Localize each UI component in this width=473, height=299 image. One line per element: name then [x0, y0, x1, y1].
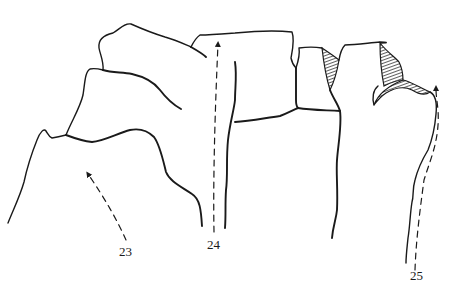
middle-block-top: [103, 70, 181, 109]
small-block-outline: [296, 47, 322, 68]
label-24: 24: [207, 237, 221, 252]
right-block-top: [339, 42, 386, 60]
central-block-left-side: [225, 62, 236, 228]
hatched-band: [374, 80, 430, 105]
upper-block-tab: [191, 47, 206, 57]
small-block-base: [298, 108, 340, 111]
central-block-base: [235, 108, 298, 122]
illustration: 23 24 25: [0, 0, 473, 299]
left-peak-outline: [8, 130, 66, 223]
lower-block-edge: [66, 129, 202, 226]
label-25: 25: [410, 268, 423, 283]
hatched-wedge-right: [380, 43, 403, 86]
arrow-23: [88, 174, 126, 240]
arrow-24: [214, 44, 218, 232]
central-block-right-side: [296, 68, 298, 108]
upper-block-outline: [99, 24, 191, 70]
middle-block-outline: [66, 69, 103, 135]
hatched-wedge-left: [322, 48, 339, 90]
arrow-25: [415, 88, 438, 270]
right-outer-line: [406, 92, 436, 263]
right-block-left-side: [330, 90, 341, 238]
central-block-outline: [191, 31, 296, 68]
label-23: 23: [119, 244, 132, 259]
